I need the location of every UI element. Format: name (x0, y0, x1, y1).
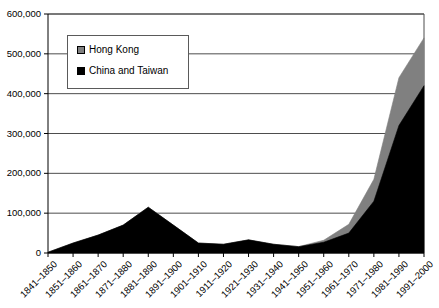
area-series (48, 86, 424, 253)
area-chart: 600,000500,000400,000300,000200,000100,0… (0, 0, 439, 308)
y-tick-label: 500,000 (0, 49, 41, 59)
chart-legend: Hong KongChina and Taiwan (67, 35, 189, 89)
y-axis-ticks (44, 14, 48, 253)
legend-label: China and Taiwan (89, 65, 168, 76)
y-tick-label: 100,000 (0, 208, 41, 218)
legend-swatch-icon (77, 67, 85, 75)
legend-item: Hong Kong (77, 44, 188, 55)
x-axis-ticks (48, 253, 424, 257)
legend-label: Hong Kong (89, 44, 139, 55)
y-tick-label: 600,000 (0, 9, 41, 19)
legend-swatch-icon (77, 46, 85, 54)
y-tick-label: 400,000 (0, 89, 41, 99)
legend-item: China and Taiwan (77, 65, 188, 76)
y-tick-label: 300,000 (0, 129, 41, 139)
y-tick-label: 0 (0, 248, 41, 258)
y-tick-label: 200,000 (0, 168, 41, 178)
